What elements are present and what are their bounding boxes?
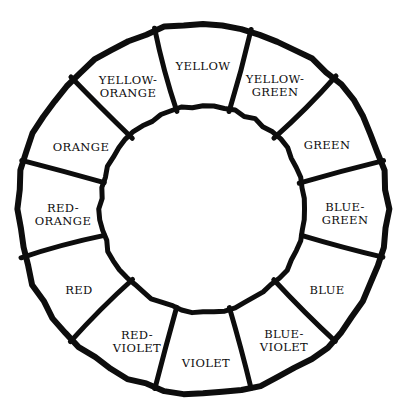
color-wheel-diagram xyxy=(0,0,405,420)
canvas-background xyxy=(0,0,405,420)
color-wheel-figure: YELLOWYELLOW- GREENGREENBLUE- GREENBLUEB… xyxy=(0,0,405,420)
